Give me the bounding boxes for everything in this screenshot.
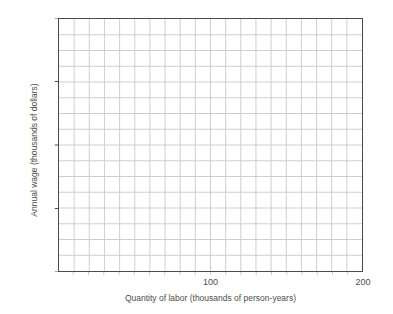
x-axis-ticks-svg xyxy=(58,272,363,276)
y-axis-title: Annual wage (thousands of dollars) xyxy=(29,30,39,270)
y-axis-ticks xyxy=(53,18,58,272)
y-axis-tick-labels: 04080120160 xyxy=(0,0,50,314)
gridlines-svg xyxy=(59,19,362,271)
plot-area xyxy=(58,18,363,272)
chart-container: 04080120160 100200 Quantity of labor (th… xyxy=(0,0,393,314)
y-axis-ticks-svg xyxy=(53,18,58,272)
x-axis-title: Quantity of labor (thousands of person-y… xyxy=(58,293,363,303)
x-tick-label: 200 xyxy=(355,278,370,287)
gridlines xyxy=(59,19,362,271)
x-tick-label: 100 xyxy=(203,278,218,287)
x-axis-ticks xyxy=(58,272,363,276)
